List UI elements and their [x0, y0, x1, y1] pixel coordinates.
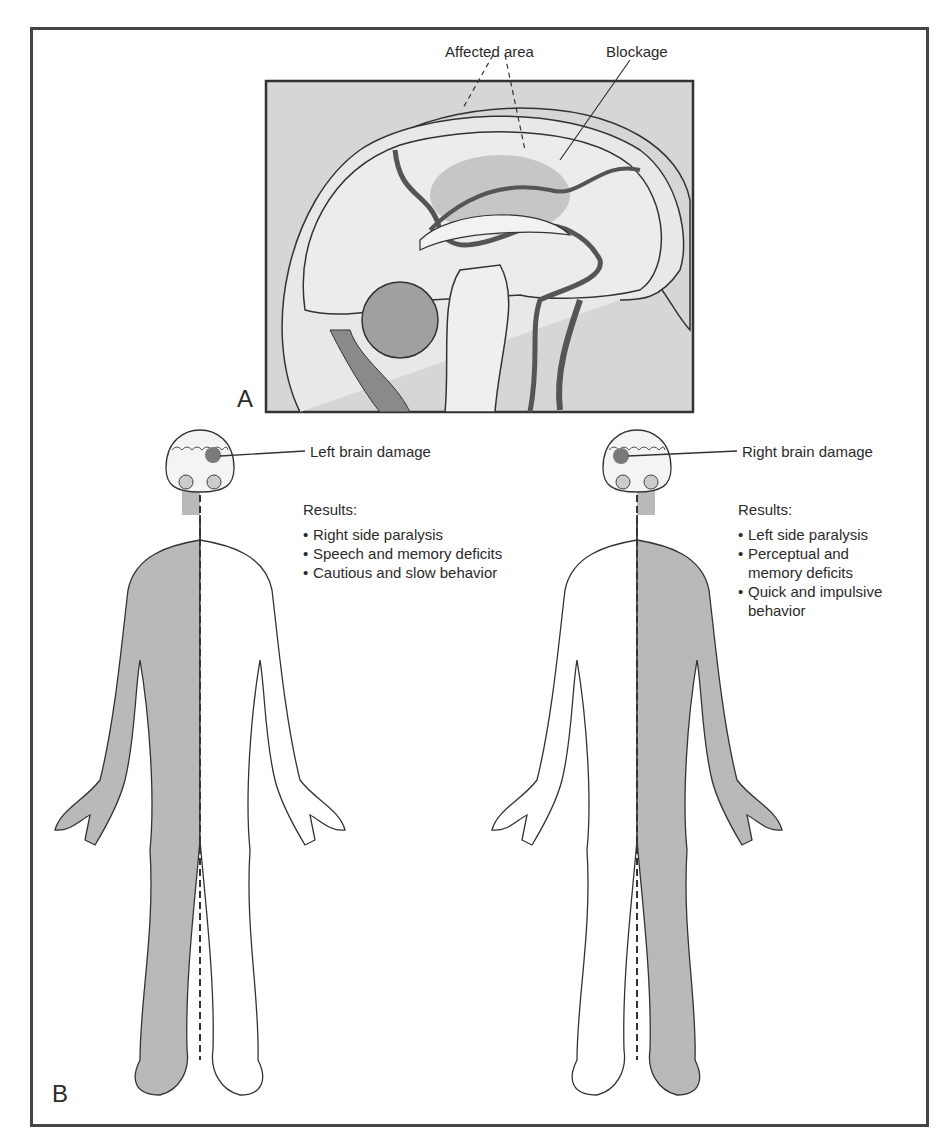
results-heading: Results:	[738, 500, 888, 519]
left-results: Results: Right side paralysis Speech and…	[303, 500, 502, 582]
head-brain-section	[166, 430, 234, 492]
right-brain-damage-label: Right brain damage	[742, 443, 873, 460]
result-item: Perceptual and memory deficits	[738, 544, 888, 582]
head-brain-section	[603, 430, 671, 492]
right-results: Results: Left side paralysis Perceptual …	[738, 500, 888, 620]
affected-area-label: Affected area	[445, 43, 534, 60]
result-item: Quick and impulsive behavior	[738, 582, 888, 620]
results-list: Right side paralysis Speech and memory d…	[303, 525, 502, 582]
result-item: Cautious and slow behavior	[303, 563, 502, 582]
left-brain-damage-leader	[220, 451, 305, 456]
panel-b-letter: B	[52, 1080, 68, 1108]
left-brain-damage-label: Left brain damage	[310, 443, 431, 460]
results-heading: Results:	[303, 500, 502, 519]
panel-a-letter: A	[237, 385, 253, 413]
result-item: Left side paralysis	[738, 525, 888, 544]
result-item: Right side paralysis	[303, 525, 502, 544]
left-figure-body	[55, 430, 345, 1095]
blockage-label: Blockage	[606, 43, 668, 60]
result-item: Speech and memory deficits	[303, 544, 502, 563]
lesion-left-brain	[205, 447, 221, 463]
lesion-right-brain	[613, 448, 629, 464]
cerebellum	[362, 282, 438, 358]
results-list: Left side paralysis Perceptual and memor…	[738, 525, 888, 620]
